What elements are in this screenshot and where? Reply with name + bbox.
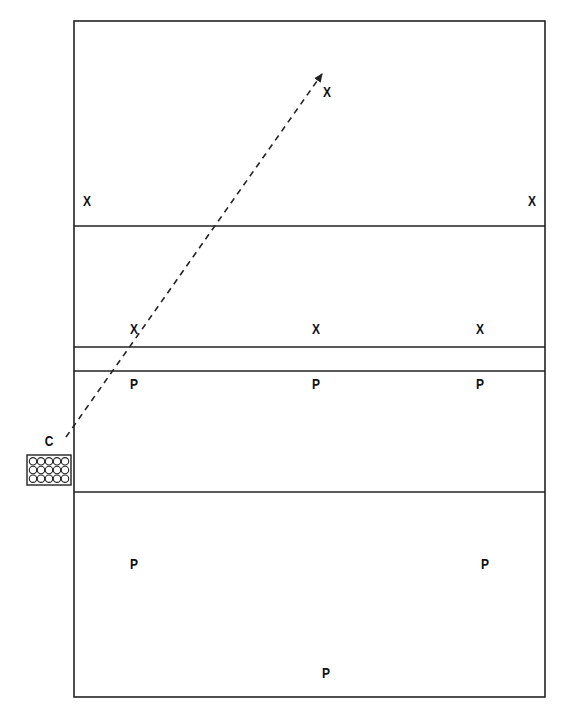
player-p-back-left: P bbox=[130, 556, 138, 571]
ball-icon bbox=[29, 475, 36, 482]
ball-icon bbox=[45, 458, 52, 465]
player-p-back-right: P bbox=[481, 556, 489, 571]
player-x-far-center: X bbox=[323, 84, 331, 99]
ball-icon bbox=[45, 466, 52, 473]
player-x-net-right: X bbox=[476, 321, 484, 336]
ball-icon bbox=[53, 466, 60, 473]
ball-icon bbox=[37, 458, 44, 465]
ball-icon bbox=[61, 458, 68, 465]
player-p-net-left: P bbox=[130, 376, 138, 391]
ball-icon bbox=[29, 458, 36, 465]
ball-icon bbox=[37, 475, 44, 482]
court bbox=[74, 21, 545, 697]
ball-icon bbox=[53, 475, 60, 482]
ball-icon bbox=[61, 475, 68, 482]
player-x-net-left: X bbox=[130, 321, 138, 336]
ball-icon bbox=[53, 458, 60, 465]
court-lines bbox=[74, 226, 545, 492]
player-x-far-left: X bbox=[83, 193, 91, 208]
court-boundary bbox=[74, 21, 545, 697]
ball-cart-icon bbox=[27, 455, 71, 485]
ball-icon bbox=[61, 466, 68, 473]
ball-icon bbox=[37, 466, 44, 473]
player-p-back-center: P bbox=[322, 665, 330, 680]
coach-label: C bbox=[45, 433, 54, 448]
player-p-net-right: P bbox=[476, 376, 484, 391]
ball-icon bbox=[29, 466, 36, 473]
player-x-far-right: X bbox=[528, 193, 536, 208]
player-x-net-center: X bbox=[312, 321, 320, 336]
player-p-net-center: P bbox=[312, 376, 320, 391]
drill-diagram bbox=[0, 0, 562, 721]
ball-icon bbox=[45, 475, 52, 482]
pass-arrow bbox=[66, 74, 322, 437]
